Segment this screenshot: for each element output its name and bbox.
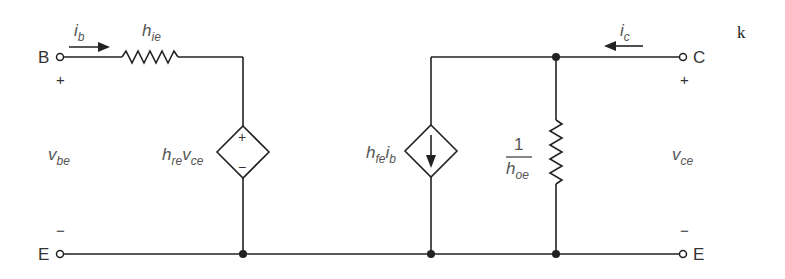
vbe-label: vbe [48,146,70,163]
junction-dot-bottom-left [239,250,247,258]
terminal-e-right-node [680,251,687,258]
hre-vce-label: hrevce [162,146,203,163]
arrow-ib-head [98,42,110,52]
input-minus-sign: − [56,223,65,238]
output-plus-sign: + [680,72,689,87]
terminal-c-node [680,54,687,61]
junction-dot-bottom-right [552,250,560,258]
terminal-e-left-label: E [38,246,49,263]
junction-dot-bottom-mid [427,250,435,258]
junction-dot-top-right [552,53,560,61]
hoe-denominator: hoe [506,160,529,177]
terminal-e-right-label: E [693,246,704,263]
terminal-e-left-node [57,251,64,258]
circuit-schematic [0,0,785,279]
vs-minus-sign: − [238,160,246,174]
corner-mark: k [737,24,746,41]
base-current-label: ib [74,22,84,39]
output-minus-sign: − [680,223,689,238]
hoe-numerator: 1 [514,136,523,153]
terminal-b-label: B [38,49,49,66]
resistor-hoe [550,120,562,184]
hie-label: hie [142,22,161,39]
cs-arrow-head [426,155,436,168]
hfe-ib-label: hfeib [366,144,396,161]
resistor-hie [122,51,178,63]
arrow-ic-head [604,41,616,51]
vs-plus-sign: + [238,130,246,144]
vce-label: vce [672,146,693,163]
terminal-b-node [57,54,64,61]
input-plus-sign: + [56,72,65,87]
terminal-c-label: C [693,49,705,66]
collector-current-label: ic [620,22,630,39]
